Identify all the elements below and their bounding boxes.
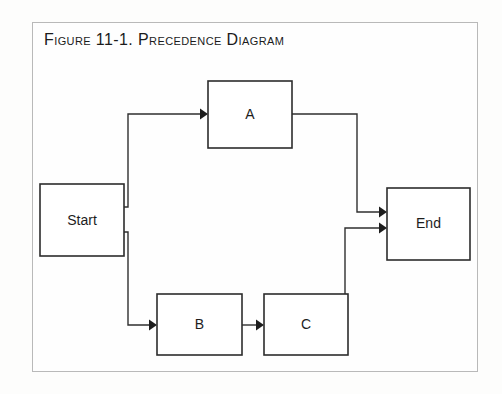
edge-start-to-a [124,109,208,208]
arrowhead-icon [256,320,264,331]
node-c[interactable]: C [264,294,348,355]
node-c-label: C [301,316,311,332]
edge-a-to-end-line [292,114,379,212]
edge-a-to-end [292,114,387,218]
node-b-label: B [195,316,204,332]
edge-c-to-end [345,223,387,326]
node-start[interactable]: Start [40,184,124,256]
node-start-label: Start [67,212,97,228]
arrowhead-icon [200,109,208,120]
arrowhead-icon [379,207,387,218]
precedence-diagram: Start A B C End [0,0,502,394]
edge-c-to-end-line [345,228,379,325]
node-b[interactable]: B [157,294,242,355]
node-end[interactable]: End [387,188,470,260]
node-end-label: End [416,215,441,231]
node-a[interactable]: A [208,81,292,148]
edge-start-to-b [124,232,157,331]
edge-start-to-a-line [124,114,200,207]
node-a-label: A [245,106,255,122]
arrowhead-icon [379,223,387,234]
figure-canvas: Figure 11-1. Precedence Diagram [0,0,502,394]
edge-start-to-b-line [124,232,149,325]
arrowhead-icon [149,320,157,331]
edge-b-to-c [242,320,264,331]
